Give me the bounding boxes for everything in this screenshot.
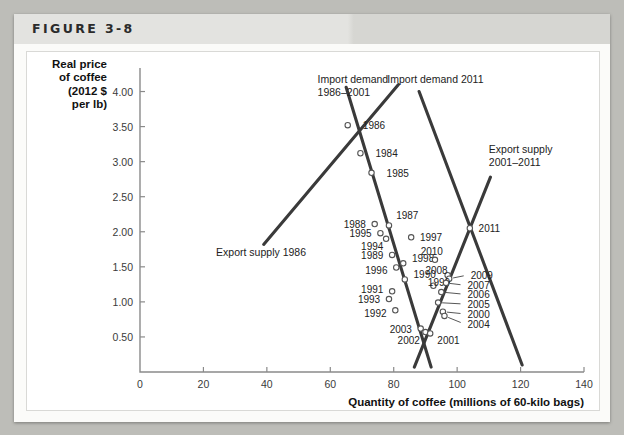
y-axis-title-line: of coffee [59, 71, 107, 83]
data-point-label-2002: 2002 [398, 335, 421, 346]
data-point-1989[interactable] [389, 252, 394, 257]
y-tick-label: 4.00 [113, 86, 134, 98]
curve-label-export-supply-2001-2011: Export supply [489, 143, 553, 155]
data-point-label-1996: 1996 [365, 265, 388, 276]
figure-number-label: FIGURE 3-8 [32, 21, 135, 36]
data-point-label-1986: 1986 [363, 120, 386, 131]
data-point-label-1997: 1997 [420, 232, 443, 243]
data-point-label-2003: 2003 [390, 324, 413, 335]
data-point-1997[interactable] [408, 235, 413, 240]
data-point-1992[interactable] [393, 308, 398, 313]
data-point-label-2011: 2011 [479, 223, 501, 234]
data-point-1998[interactable] [401, 261, 406, 266]
data-point-label-2010: 2010 [421, 246, 444, 257]
x-tick-label: 40 [261, 378, 273, 390]
y-tick-label: 2.50 [113, 191, 134, 203]
chart-plot-area: 0204060801001201400.501.001.502.002.503.… [26, 51, 600, 411]
data-point-1985[interactable] [369, 170, 374, 175]
leader-line-2004 [448, 317, 461, 322]
y-tick-label: 3.00 [113, 156, 134, 168]
leader-line-2009 [453, 276, 464, 278]
x-tick-label: 0 [137, 378, 143, 390]
y-axis-title-line: per lb) [72, 98, 107, 110]
x-tick-label: 100 [448, 378, 466, 390]
data-point-1995[interactable] [378, 230, 383, 235]
y-tick-label: 3.50 [113, 121, 134, 133]
x-axis-title: Quantity of coffee (millions of 60-kilo … [348, 396, 584, 408]
curve-export-supply-1986 [264, 85, 399, 245]
data-point-2011[interactable] [467, 226, 472, 231]
leader-line-2006 [445, 292, 460, 293]
y-axis-title-line: (2012 $ [68, 85, 108, 97]
data-point-label-1992: 1992 [364, 308, 387, 319]
data-point-1996[interactable] [394, 265, 399, 270]
data-point-label-1984: 1984 [376, 148, 399, 159]
curve-label-import-demand-1986-2001: 1986–2001 [318, 86, 371, 98]
leader-line-2007 [450, 283, 460, 284]
y-tick-label: 0.50 [113, 331, 134, 343]
data-point-2001[interactable] [427, 331, 432, 336]
curve-label-import-demand-2011: Import demand 2011 [387, 73, 483, 85]
data-point-2007[interactable] [443, 280, 448, 285]
data-point-1984[interactable] [358, 151, 363, 156]
x-tick-label: 120 [512, 378, 530, 390]
y-tick-label: 2.00 [113, 226, 134, 238]
x-tick-label: 60 [324, 378, 336, 390]
leader-line-2000 [447, 312, 461, 313]
curve-label-export-supply-2001-2011: 2001–2011 [489, 156, 541, 168]
x-tick-label: 140 [575, 378, 593, 390]
data-point-label-1993: 1993 [358, 294, 381, 305]
data-point-1990[interactable] [402, 277, 407, 282]
curve-label-export-supply-1986: Export supply 1986 [216, 246, 306, 258]
data-point-1994[interactable] [383, 236, 388, 241]
x-tick-label: 20 [198, 378, 210, 390]
y-tick-label: 1.00 [113, 296, 134, 308]
data-point-1986[interactable] [345, 122, 350, 127]
y-tick-label: 1.50 [113, 261, 134, 273]
data-point-label-1987: 1987 [396, 210, 419, 221]
x-tick-label: 80 [388, 378, 400, 390]
data-point-2004[interactable] [442, 313, 447, 318]
data-point-2010[interactable] [432, 257, 437, 262]
data-point-label-2004: 2004 [467, 319, 490, 330]
data-point-2005[interactable] [435, 300, 440, 305]
coffee-supply-demand-scatter-chart: 0204060801001201400.501.001.502.002.503.… [27, 52, 597, 408]
figure-page: FIGURE 3-8 0204060801001201400.501.001.5… [0, 0, 624, 435]
data-point-label-2008: 2008 [425, 265, 448, 276]
data-point-1987[interactable] [386, 223, 391, 228]
figure-card: FIGURE 3-8 0204060801001201400.501.001.5… [14, 14, 610, 422]
data-point-label-1985: 1985 [387, 168, 410, 179]
data-point-1993[interactable] [386, 296, 391, 301]
data-point-label-2001: 2001 [437, 335, 460, 346]
data-point-1988[interactable] [372, 221, 377, 226]
data-point-1991[interactable] [389, 289, 394, 294]
data-point-2003[interactable] [418, 326, 423, 331]
y-axis-title-line: Real price [52, 58, 107, 70]
data-point-label-1995: 1995 [349, 228, 372, 239]
leader-line-2005 [442, 303, 460, 304]
curve-label-import-demand-1986-2001: Import demand [318, 73, 389, 85]
data-point-label-1989: 1989 [361, 250, 384, 261]
data-point-2006[interactable] [439, 289, 444, 294]
